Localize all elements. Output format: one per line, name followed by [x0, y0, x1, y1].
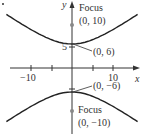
vertex-bottom-leader	[73, 86, 92, 92]
focus-top-label: Focus	[79, 3, 103, 13]
focus-top-coord: (0, 10)	[79, 16, 106, 26]
x-axis-label: x	[135, 74, 139, 84]
focus-bottom-label: Focus	[78, 105, 102, 115]
vertex-bottom-label: (0, −6)	[93, 81, 120, 91]
hyperbola-plot	[0, 0, 145, 136]
focus-bottom-point	[70, 109, 74, 113]
bullet-dot	[2, 3, 4, 5]
vertex-top-leader	[73, 44, 92, 51]
x-axis-arrow-icon	[133, 66, 140, 71]
focus-bottom-coord: (0, −10)	[78, 118, 110, 128]
y-axis-arrow-icon	[70, 1, 75, 8]
focus-top-point	[70, 23, 74, 27]
vertex-top-label: (0, 6)	[93, 47, 115, 57]
y-tick-label-5: 5	[62, 42, 67, 52]
x-tick-label-neg10: −10	[20, 73, 36, 83]
y-axis-label: y	[62, 0, 66, 10]
